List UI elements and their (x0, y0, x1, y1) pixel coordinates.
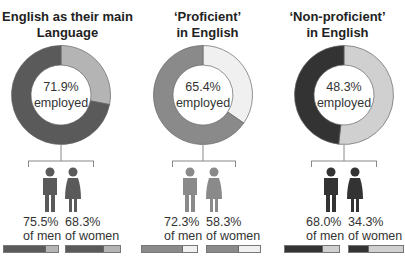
panel-title: English as their main Language (0, 9, 135, 41)
bracket-connector (0, 145, 135, 169)
men-label: of men (23, 229, 61, 244)
men-pct: 75.5% (23, 215, 58, 230)
bar-fill (207, 246, 238, 252)
title-line-1: English as their main (0, 9, 135, 25)
bar-remainder (182, 246, 197, 252)
man-icon (181, 167, 199, 213)
panel-proficient: ‘Proficient’ in English 65.4% employed 7… (140, 0, 275, 260)
bar-fill (285, 246, 322, 252)
donut-center-label: 65.4% employed (173, 79, 233, 111)
donut-center-label: 71.9% employed (31, 79, 91, 111)
bar-fill (66, 246, 103, 252)
title-line-2: in English (270, 25, 405, 41)
woman-icon (204, 167, 224, 213)
title-line-1: ‘Non-proficient’ (270, 9, 405, 25)
bar-remainder (238, 246, 260, 252)
center-pct: 65.4% (173, 79, 233, 95)
title-line-2: in English (140, 25, 275, 41)
man-icon (322, 167, 340, 213)
bar-remainder (368, 246, 403, 252)
men-bar (284, 245, 340, 253)
men-label: of men (306, 229, 344, 244)
donut-center-label: 48.3% employed (314, 79, 374, 111)
bar-fill (142, 246, 182, 252)
women-bar (65, 245, 121, 253)
center-sub: employed (31, 95, 91, 111)
panel-main-language: English as their main Language 71.9% emp… (0, 0, 135, 260)
women-label: of women (348, 229, 402, 244)
bracket-connector (140, 145, 275, 169)
center-sub: employed (173, 95, 233, 111)
bar-remainder (322, 246, 339, 252)
title-line-1: ‘Proficient’ (140, 9, 275, 25)
woman-icon (63, 167, 83, 213)
women-pct: 34.3% (348, 215, 383, 230)
bar-remainder (103, 246, 120, 252)
men-pct: 68.0% (306, 215, 341, 230)
women-pct: 68.3% (65, 215, 100, 230)
women-label: of women (65, 229, 119, 244)
panel-title: ‘Proficient’ in English (140, 9, 275, 41)
women-label: of women (206, 229, 260, 244)
center-sub: employed (314, 95, 374, 111)
title-line-2: Language (0, 25, 135, 41)
panel-non-proficient: ‘Non-proficient’ in English 48.3% employ… (270, 0, 405, 260)
bar-fill (4, 246, 45, 252)
bar-fill (349, 246, 368, 252)
center-pct: 48.3% (314, 79, 374, 95)
woman-icon (345, 167, 365, 213)
women-bar (206, 245, 261, 253)
men-bar (3, 245, 59, 253)
women-bar (348, 245, 404, 253)
men-label: of men (164, 229, 202, 244)
man-icon (41, 167, 59, 213)
men-pct: 72.3% (164, 215, 199, 230)
bar-remainder (45, 246, 58, 252)
panel-title: ‘Non-proficient’ in English (270, 9, 405, 41)
men-bar (141, 245, 198, 253)
women-pct: 58.3% (206, 215, 241, 230)
bracket-connector (270, 145, 405, 169)
center-pct: 71.9% (31, 79, 91, 95)
